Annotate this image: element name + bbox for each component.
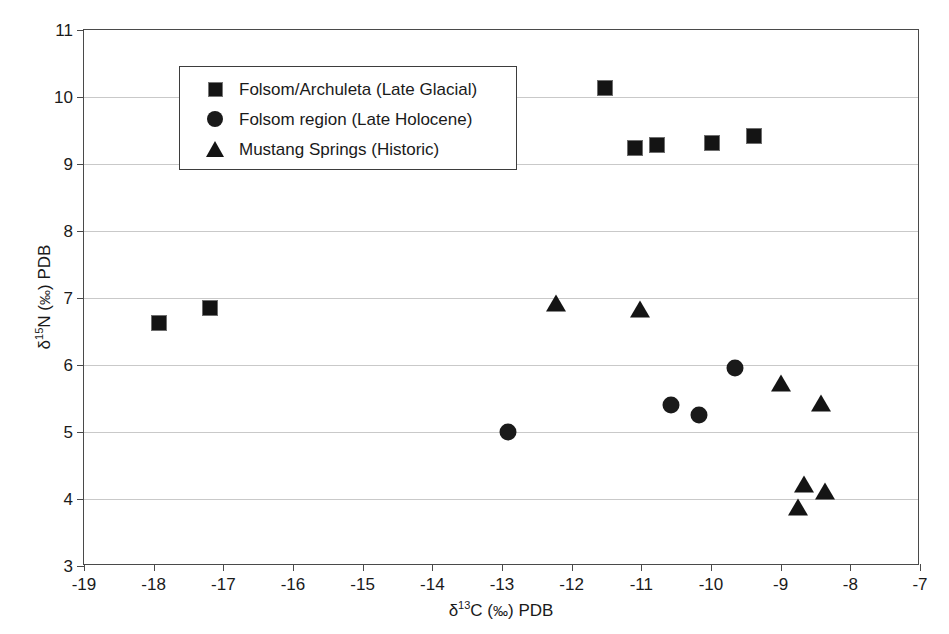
y-tick-mark bbox=[77, 566, 84, 567]
y-tick-label: 8 bbox=[64, 223, 73, 240]
y-tick-label: 5 bbox=[64, 424, 73, 441]
square-swatch bbox=[208, 82, 223, 97]
y-tick-mark bbox=[77, 432, 84, 433]
data-point bbox=[151, 315, 167, 331]
gridline bbox=[84, 365, 918, 366]
gridline bbox=[84, 298, 918, 299]
x-tick-mark bbox=[711, 564, 712, 571]
y-tick-mark bbox=[77, 97, 84, 98]
x-tick-label: -9 bbox=[773, 576, 788, 593]
data-point bbox=[815, 482, 835, 499]
legend-entry: Folsom/Archuleta (Late Glacial) bbox=[180, 74, 516, 104]
data-point bbox=[597, 80, 613, 96]
x-tick-mark bbox=[223, 564, 224, 571]
data-point bbox=[202, 300, 218, 316]
gridline bbox=[84, 231, 918, 232]
x-tick-mark bbox=[84, 564, 85, 571]
x-tick-label: -19 bbox=[72, 576, 97, 593]
x-tick-mark bbox=[293, 564, 294, 571]
y-tick-mark bbox=[77, 164, 84, 165]
x-tick-label: -11 bbox=[630, 576, 653, 593]
y-tick-label: 4 bbox=[64, 491, 73, 508]
y-tick-mark bbox=[77, 365, 84, 366]
x-tick-mark bbox=[920, 564, 921, 571]
y-tick-mark bbox=[77, 231, 84, 232]
data-point bbox=[627, 140, 643, 156]
data-point bbox=[811, 395, 831, 412]
x-tick-label: -10 bbox=[699, 576, 724, 593]
x-tick-label: -14 bbox=[420, 576, 445, 593]
triangle-swatch bbox=[206, 141, 224, 157]
x-tick-mark bbox=[502, 564, 503, 571]
y-axis-title: δ15N (‰) PDB bbox=[26, 29, 52, 565]
data-point bbox=[727, 359, 744, 376]
legend-marker-triangle-icon bbox=[202, 141, 228, 157]
legend-entry: Folsom region (Late Holocene) bbox=[180, 104, 516, 134]
y-tick-mark bbox=[77, 298, 84, 299]
legend-label: Folsom region (Late Holocene) bbox=[239, 111, 472, 128]
legend-label: Mustang Springs (Historic) bbox=[239, 141, 439, 158]
data-point bbox=[746, 128, 762, 144]
data-point bbox=[704, 135, 720, 151]
x-tick-label: -17 bbox=[211, 576, 236, 593]
legend-entry: Mustang Springs (Historic) bbox=[180, 134, 516, 164]
data-point bbox=[662, 397, 679, 414]
x-tick-mark bbox=[850, 564, 851, 571]
x-tick-label: -13 bbox=[490, 576, 515, 593]
data-point bbox=[691, 406, 708, 423]
x-axis-title-text: δ13C (‰) PDB bbox=[449, 601, 554, 620]
y-tick-label: 6 bbox=[64, 357, 73, 374]
x-tick-mark bbox=[572, 564, 573, 571]
x-tick-mark bbox=[432, 564, 433, 571]
y-tick-mark bbox=[77, 30, 84, 31]
chart-legend: Folsom/Archuleta (Late Glacial)Folsom re… bbox=[179, 66, 517, 170]
data-point bbox=[771, 375, 791, 392]
y-tick-label: 10 bbox=[54, 89, 73, 106]
data-point bbox=[630, 301, 650, 318]
x-tick-mark bbox=[363, 564, 364, 571]
circle-swatch bbox=[207, 111, 223, 127]
legend-label: Folsom/Archuleta (Late Glacial) bbox=[239, 81, 477, 98]
y-tick-label: 3 bbox=[64, 558, 73, 575]
x-tick-mark bbox=[781, 564, 782, 571]
x-tick-mark bbox=[154, 564, 155, 571]
data-point bbox=[649, 137, 665, 153]
x-tick-label: -8 bbox=[843, 576, 858, 593]
y-axis-title-text: δ15N (‰) PDB bbox=[35, 245, 54, 350]
legend-marker-circle-icon bbox=[202, 111, 228, 127]
scatter-chart-figure: 34567891011 -19-18-17-16-15-14-13-12-11-… bbox=[0, 0, 949, 634]
x-tick-label: -15 bbox=[350, 576, 375, 593]
x-axis-title: δ13C (‰) PDB bbox=[83, 600, 919, 619]
y-tick-mark bbox=[77, 499, 84, 500]
plot-area: 34567891011 -19-18-17-16-15-14-13-12-11-… bbox=[83, 29, 919, 565]
data-point bbox=[788, 499, 808, 516]
x-tick-mark bbox=[641, 564, 642, 571]
data-point bbox=[499, 424, 516, 441]
y-tick-label: 11 bbox=[55, 22, 73, 39]
y-tick-label: 9 bbox=[64, 156, 73, 173]
data-point bbox=[546, 294, 566, 311]
x-tick-label: -16 bbox=[281, 576, 306, 593]
data-point bbox=[794, 475, 814, 492]
legend-marker-square-icon bbox=[202, 82, 228, 97]
x-tick-label: -18 bbox=[141, 576, 166, 593]
x-tick-label: -7 bbox=[912, 576, 927, 593]
y-tick-label: 7 bbox=[64, 290, 73, 307]
x-tick-label: -12 bbox=[559, 576, 584, 593]
